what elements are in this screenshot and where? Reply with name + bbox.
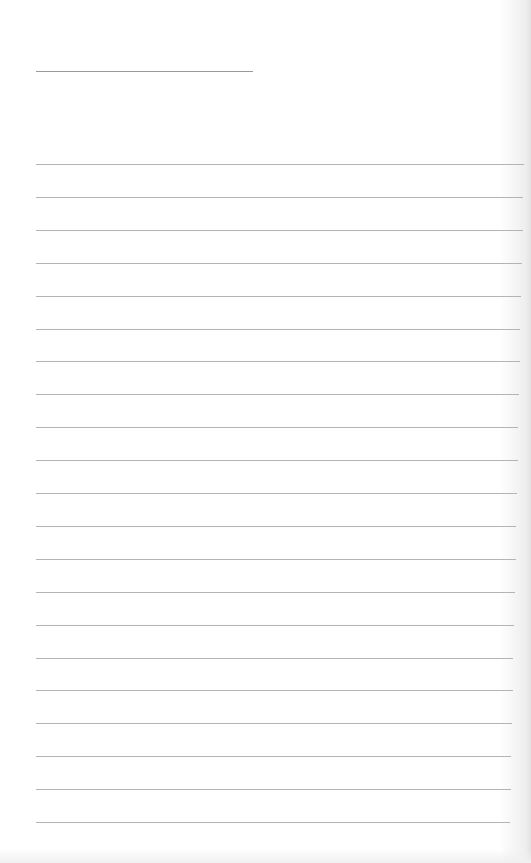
page-edge-shadow (0, 849, 531, 863)
notepad-page (0, 0, 531, 863)
ruled-line (36, 592, 515, 593)
ruled-line (36, 756, 511, 757)
ruled-line (36, 361, 520, 362)
ruled-line (36, 822, 510, 823)
ruled-line (36, 329, 520, 330)
ruled-line (36, 625, 514, 626)
ruled-line (36, 559, 516, 560)
ruled-line (36, 230, 523, 231)
ruled-line (36, 427, 518, 428)
ruled-line (36, 460, 518, 461)
ruled-line (36, 296, 521, 297)
ruled-line (36, 263, 522, 264)
ruled-line (36, 690, 513, 691)
ruled-line (36, 493, 517, 494)
ruled-line (36, 197, 523, 198)
ruled-line (36, 394, 519, 395)
ruled-line (36, 789, 511, 790)
title-line (36, 71, 253, 72)
ruled-line (36, 164, 524, 165)
ruled-line (36, 526, 516, 527)
ruled-line (36, 723, 512, 724)
ruled-line (36, 658, 513, 659)
